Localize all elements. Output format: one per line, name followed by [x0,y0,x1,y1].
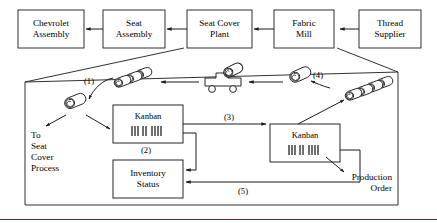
fabric-roll-single-left [63,92,88,110]
to-seat-cover-process-label: To Seat Cover Process [31,130,59,174]
kanban-left-label: Kanban [113,112,183,122]
truck-wheel-front [209,86,216,93]
kanban-right-label: Kanban [270,131,340,141]
flow-label-1: (1) [84,76,94,86]
fabric-roll-icon [113,74,132,88]
arrow-flow-4 [311,81,330,88]
flow-label-4: (4) [313,70,323,80]
node-box-chevrolet-assembly[interactable] [18,10,84,48]
arrow-roll-to-kanban-left [86,115,110,129]
leader-line-left [25,48,184,82]
production-order-label: Production Order [326,172,392,194]
supply-chain-boxes [18,10,421,48]
node-box-seat-cover-plant[interactable] [187,10,252,48]
diagram-canvas: Chevrolet Assembly Seat Assembly Seat Co… [0,0,437,223]
fabric-roll-icon [288,65,313,84]
flow-label-2: (2) [141,145,151,155]
arrow-kanban-right-to-roll-stack [298,100,344,124]
inventory-status-box[interactable] [113,160,183,198]
fabric-roll-single-right [288,65,313,84]
flow-label-3: (3) [224,112,234,122]
leader-line-right [337,48,398,72]
fabric-roll-icon [63,92,88,110]
node-box-seat-assembly[interactable] [103,10,165,48]
fabric-roll-icon [344,87,363,101]
fabric-roll-stack-right [344,75,394,101]
node-box-fabric-mill[interactable] [274,10,334,48]
node-box-thread-supplier[interactable] [359,10,421,48]
page-bottom-rule [0,219,437,220]
fabric-roll-stack-left [113,66,153,88]
truck-wheel-rear [230,86,237,93]
flow-label-5: (5) [238,186,248,196]
arrow-flow-2 [183,133,196,170]
arrow-roll-to-seat-cover-process [46,115,66,126]
